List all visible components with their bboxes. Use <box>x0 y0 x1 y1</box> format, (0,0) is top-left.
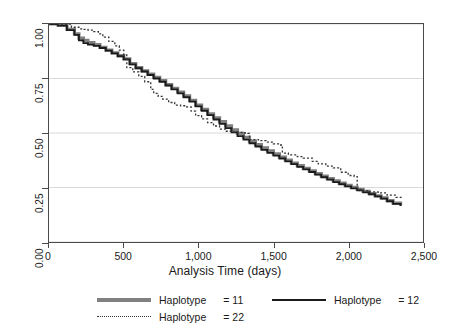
y-axis: 0.000.250.500.751.00 <box>0 0 48 336</box>
y-tick-label: 1.00 <box>34 38 45 57</box>
x-tick-mark <box>274 243 275 248</box>
y-tick-label: 0.25 <box>34 203 45 222</box>
curve-12 <box>49 24 401 206</box>
legend-value-haplotype-11: = 11 <box>223 294 243 306</box>
legend-value-haplotype-12: = 12 <box>398 294 419 306</box>
curve-layer <box>49 24 423 242</box>
x-tick-mark <box>48 243 49 248</box>
x-tick-label: 2,000 <box>336 250 362 262</box>
x-tick-label: 500 <box>114 250 132 262</box>
x-tick-mark <box>424 243 425 248</box>
x-tick-mark <box>349 243 350 248</box>
x-tick-mark <box>123 243 124 248</box>
curve-22 <box>49 24 402 198</box>
legend-value-haplotype-22: = 22 <box>223 311 244 323</box>
x-tick-label: 2,500 <box>411 250 437 262</box>
chart-legend: Haplotype = 11 Haplotype = 22 Haplotype … <box>0 294 450 334</box>
legend-label-haplotype-22: Haplotype <box>159 311 206 323</box>
legend-swatch-solid-thin <box>272 294 326 306</box>
plot-area <box>48 23 424 243</box>
survival-curve-figure: 0.000.250.500.751.00 05001,0001,5002,000… <box>0 0 450 336</box>
legend-item-haplotype-11[interactable]: Haplotype = 11 <box>97 294 243 306</box>
x-axis-title: Analysis Time (days) <box>0 264 450 278</box>
legend-item-haplotype-22[interactable]: Haplotype = 22 <box>97 311 244 323</box>
x-tick-label: 1,500 <box>260 250 286 262</box>
legend-label-haplotype-11: Haplotype <box>159 294 206 306</box>
legend-swatch-solid-thick <box>97 294 151 306</box>
legend-swatch-dotted <box>97 311 151 323</box>
x-tick-label: 1,000 <box>185 250 211 262</box>
x-tick-mark <box>198 243 199 248</box>
legend-item-haplotype-12[interactable]: Haplotype = 12 <box>272 294 419 306</box>
curve-11 <box>49 24 401 205</box>
y-tick-label: 0.75 <box>34 93 45 112</box>
y-tick-label: 0.50 <box>34 148 45 167</box>
legend-label-haplotype-12: Haplotype <box>334 294 381 306</box>
x-tick-label: 0 <box>45 250 51 262</box>
